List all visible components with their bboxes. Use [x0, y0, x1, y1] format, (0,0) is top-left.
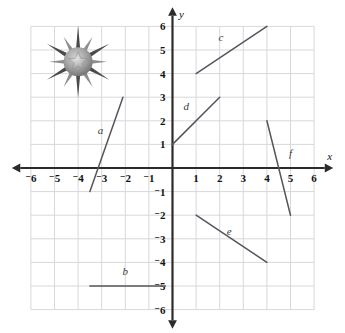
x-tick-label: 6: [311, 172, 317, 184]
x-tick-label: ⁻5: [49, 172, 61, 184]
starburst-decoration: [47, 26, 109, 98]
y-tick-label: ⁻3: [154, 233, 166, 245]
y-tick-label: 4: [160, 68, 166, 80]
x-tick-label: ⁻3: [96, 172, 108, 184]
x-tick-label: 3: [241, 172, 247, 184]
y-axis-arrow-up: [168, 7, 177, 16]
segment-label-b: b: [123, 265, 129, 277]
x-tick-label: ⁻1: [143, 172, 154, 184]
starburst-spike: [91, 60, 107, 64]
starburst-spike: [49, 60, 65, 64]
y-axis-label: y: [178, 8, 184, 20]
y-axis-arrow-down: [168, 320, 177, 329]
x-axis-label: x: [326, 150, 332, 162]
y-tick-label: 2: [160, 115, 166, 127]
y-tick-label: 3: [160, 91, 166, 103]
starburst-spike: [76, 75, 80, 98]
x-tick-label: 4: [264, 172, 270, 184]
y-tick-label: ⁻4: [154, 256, 166, 268]
y-tick-label: ⁻6: [154, 304, 166, 316]
segment-label-a: a: [98, 124, 104, 136]
starburst-spike: [76, 26, 80, 49]
x-tick-label: ⁻4: [72, 172, 84, 184]
y-tick-label: 6: [160, 20, 166, 32]
segment-label-d: d: [183, 100, 189, 112]
x-tick-label: 5: [288, 172, 294, 184]
y-tick-label: ⁻1: [154, 186, 165, 198]
segment-label-f: f: [289, 147, 294, 159]
x-tick-label: 2: [217, 172, 223, 184]
segment-label-e: e: [227, 225, 232, 237]
x-tick-label: ⁻2: [120, 172, 132, 184]
x-tick-label: ⁻6: [25, 172, 37, 184]
y-tick-label: ⁻2: [154, 209, 166, 221]
y-tick-label: 5: [160, 44, 166, 56]
x-axis-arrow-right: [325, 164, 334, 173]
coordinate-plane-figure: ⁻6⁻5⁻4⁻3⁻2⁻1123456654321⁻1⁻2⁻3⁻4⁻5⁻6 x y…: [0, 0, 345, 333]
y-tick-label: 1: [160, 138, 166, 150]
x-axis-arrow-left: [12, 164, 21, 173]
graph-canvas: ⁻6⁻5⁻4⁻3⁻2⁻1123456654321⁻1⁻2⁻3⁻4⁻5⁻6 x y…: [0, 0, 345, 333]
axis-names: x y: [178, 8, 332, 162]
axes: [12, 7, 333, 328]
segment-label-c: c: [218, 31, 223, 43]
x-tick-label: 1: [193, 172, 199, 184]
line-segments: [90, 26, 291, 286]
